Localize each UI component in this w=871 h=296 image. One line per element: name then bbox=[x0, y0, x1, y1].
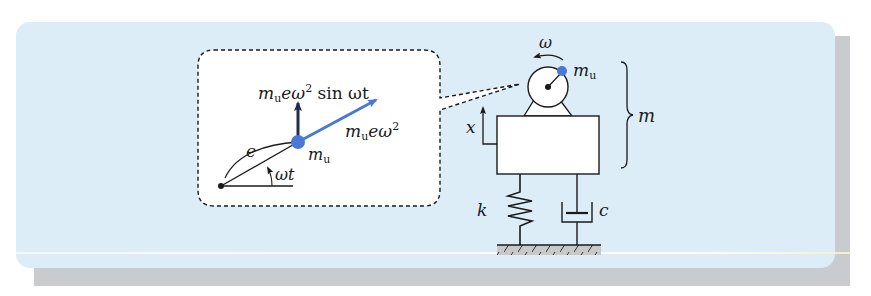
spring-icon bbox=[508, 174, 532, 245]
eccentricity-label: e bbox=[246, 141, 256, 161]
damping-label: c bbox=[599, 200, 609, 220]
unbalance-mass-dot-icon bbox=[291, 135, 305, 149]
radial-force-label: mueω2 bbox=[345, 120, 399, 143]
angle-label: ωt bbox=[275, 165, 295, 184]
displacement-label: x bbox=[466, 117, 476, 137]
total-mass-label: m bbox=[638, 105, 655, 126]
rotor-center-dot bbox=[545, 84, 551, 90]
machine-unbalance-mass-label: mu bbox=[573, 60, 596, 82]
rotation-arrow-icon bbox=[535, 55, 563, 60]
damper-icon bbox=[562, 174, 592, 245]
mass-brace-icon bbox=[621, 62, 633, 168]
rotor-unbalance-dot-icon bbox=[557, 66, 567, 76]
rotation-speed-label: ω bbox=[539, 33, 552, 52]
machine-assembly bbox=[483, 55, 633, 255]
displacement-arrow-icon bbox=[483, 108, 497, 144]
machine-block bbox=[497, 116, 599, 174]
ground-hatch bbox=[497, 245, 601, 255]
spring-stiffness-label: k bbox=[477, 200, 487, 220]
unbalance-diagram: mueω2 sin ωt mueω2 mu e ωt bbox=[0, 0, 871, 296]
